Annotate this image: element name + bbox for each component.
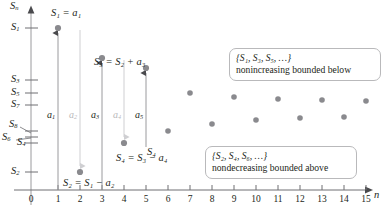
y-tick-label-s8-sub: 8	[14, 122, 17, 129]
y-tick-label-s3: S3	[11, 74, 20, 85]
equation-s4: S₄ = S₃ − a₄	[116, 153, 167, 164]
x-tick-label-6: 6	[162, 194, 174, 204]
point-s15	[363, 98, 369, 104]
segment-label-a5: a5	[135, 110, 143, 121]
segment-label-a3: a3	[91, 110, 99, 121]
y-axis-arrowhead	[28, 6, 35, 14]
y-tick-label-s5-sub: 5	[16, 90, 19, 97]
y-axis-title: Sn	[10, 1, 19, 12]
point-s10	[253, 117, 259, 123]
y-tick-label-s4: S4	[17, 137, 26, 148]
x-tick-label-4: 4	[118, 194, 130, 204]
callout-odd-description: nonincreasing bounded below	[236, 64, 374, 76]
equation-s3: S₃ = S₂ + a₃	[94, 57, 145, 68]
x-tick-label-3: 3	[96, 194, 108, 204]
point-s11	[275, 96, 281, 102]
equation-s1: S₁ = a₁	[51, 8, 81, 19]
y-tick-label-s2: S2	[11, 166, 20, 177]
x-tick-label-14: 14	[337, 194, 351, 204]
segment-label-a4-sub: 4	[118, 113, 121, 120]
point-s4	[121, 140, 127, 146]
x-tick-label-12: 12	[293, 194, 307, 204]
segment-label-a1-sub: 1	[52, 113, 55, 120]
segment-label-a2: a2	[69, 110, 77, 121]
point-s8	[209, 121, 215, 127]
x-tick-label-7: 7	[184, 194, 196, 204]
y-tick-label-s5: S5	[11, 87, 20, 98]
y-tick-label-s8: S8	[9, 119, 18, 130]
point-s7	[187, 90, 193, 96]
figure-canvas: Sn n 0 1 2 3 4 5 6 7 8 9 10 11 12 13 14 …	[0, 0, 385, 224]
point-s6	[165, 128, 171, 134]
equation-s2: S₂ = S₁ − a₂	[63, 178, 114, 189]
point-s1	[55, 25, 61, 31]
x-tick-label-1: 1	[52, 194, 64, 204]
x-tick-label-5: 5	[140, 194, 152, 204]
x-tick-label-8: 8	[206, 194, 218, 204]
point-s9	[231, 94, 237, 100]
point-label-s4: S₄	[147, 147, 156, 158]
diagram-svg	[0, 0, 385, 224]
x-tick-label-2: 2	[74, 194, 86, 204]
y-axis-title-sub: n	[15, 4, 18, 11]
segment-label-a3-sub: 3	[96, 113, 99, 120]
origin-label: 0	[25, 194, 37, 204]
y-tick-label-s3-sub: 3	[16, 77, 19, 84]
y-tick-label-s1: S1	[11, 22, 20, 33]
callout-odd-set: {S₁, S₃, S₅, …}	[236, 52, 374, 64]
segment-label-a4: a4	[113, 110, 121, 121]
y-tick-label-s4-sub: 4	[22, 140, 25, 147]
callout-even-description: nondecreasing bounded above	[212, 162, 350, 174]
x-tick-label-15: 15	[359, 194, 373, 204]
x-tick-label-11: 11	[271, 194, 285, 204]
point-s12	[297, 115, 303, 121]
y-tick-label-s7: S7	[11, 99, 20, 110]
segment-label-a2-sub: 2	[74, 113, 77, 120]
y-tick-label-s6: S6	[2, 132, 11, 143]
y-tick-label-s2-sub: 2	[16, 169, 19, 176]
segment-label-a5-sub: 5	[140, 113, 143, 120]
x-tick-label-10: 10	[249, 194, 263, 204]
point-s13	[319, 97, 325, 103]
x-axis-title: n	[374, 190, 379, 201]
x-tick-label-9: 9	[228, 194, 240, 204]
point-s14	[341, 114, 347, 120]
x-tick-label-13: 13	[315, 194, 329, 204]
point-s2	[77, 169, 83, 175]
callout-even-subsequence: {S₂, S₄, S₆, …} nondecreasing bounded ab…	[205, 146, 357, 179]
callout-even-set: {S₂, S₄, S₆, …}	[212, 150, 350, 162]
y-tick-label-s1-sub: 1	[16, 25, 19, 32]
segment-label-a1: a1	[47, 110, 55, 121]
y-tick-label-s7-sub: 7	[16, 102, 19, 109]
y-tick-label-s6-sub: 6	[7, 135, 10, 142]
callout-odd-subsequence: {S₁, S₃, S₅, …} nonincreasing bounded be…	[229, 48, 381, 81]
